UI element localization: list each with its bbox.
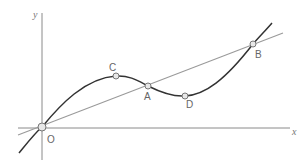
point-D-label: D [186,99,193,110]
point-O-marker [38,123,46,131]
point-C-marker [113,73,119,79]
point-C-label: C [109,62,116,73]
point-O: O [38,123,55,145]
point-B-label: B [255,49,262,60]
y-axis-label: y [32,9,38,20]
point-A-marker [145,83,151,89]
point-O-label: O [47,134,55,145]
x-axis-label: x [291,126,297,137]
function-graph-diagram: y x O C A D B [0,0,307,162]
point-B: B [250,41,262,60]
point-B-marker [250,41,256,47]
point-A-label: A [144,91,151,102]
point-A: A [144,83,151,102]
